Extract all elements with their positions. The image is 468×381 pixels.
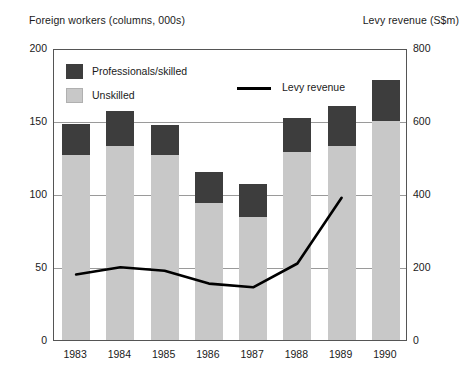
legend-swatch-unskilled <box>66 88 83 103</box>
x-axis-tick-1989: 1989 <box>319 348 363 360</box>
legend-label-line: Levy revenue <box>282 81 345 93</box>
left-axis-title: Foreign workers (columns, 000s) <box>29 14 185 26</box>
y2-axis-tick-200: 200 <box>413 261 457 273</box>
y-axis-tick-0: 0 <box>3 334 47 346</box>
x-axis-tick-1983: 1983 <box>53 348 97 360</box>
y-axis-tick-200: 200 <box>3 42 47 54</box>
y2-axis-tick-400: 400 <box>413 188 457 200</box>
legend-swatch-line <box>237 87 271 90</box>
y-axis-tick-150: 150 <box>3 115 47 127</box>
y-axis-tick-100: 100 <box>3 188 47 200</box>
y2-axis-tick-600: 600 <box>413 115 457 127</box>
y2-axis-tick-0: 0 <box>413 334 457 346</box>
x-axis-tick-1987: 1987 <box>230 348 274 360</box>
right-axis-title: Levy revenue (S$m) <box>363 14 459 26</box>
legend-label-skilled: Professionals/skilled <box>92 65 187 77</box>
y-axis-tick-50: 50 <box>3 261 47 273</box>
legend-label-unskilled: Unskilled <box>92 89 135 101</box>
x-axis-tick-1984: 1984 <box>97 348 141 360</box>
x-axis-tick-1985: 1985 <box>142 348 186 360</box>
legend-swatch-skilled <box>66 64 83 79</box>
x-axis-tick-1988: 1988 <box>274 348 318 360</box>
plot-area: Professionals/skilled Unskilled Levy rev… <box>53 49 407 341</box>
x-axis-tick-1986: 1986 <box>186 348 230 360</box>
x-axis-tick-1990: 1990 <box>363 348 407 360</box>
chart-container: Foreign workers (columns, 000s) Levy rev… <box>0 0 468 381</box>
y2-axis-tick-800: 800 <box>413 42 457 54</box>
chart-legend: Professionals/skilled Unskilled Levy rev… <box>54 50 408 342</box>
